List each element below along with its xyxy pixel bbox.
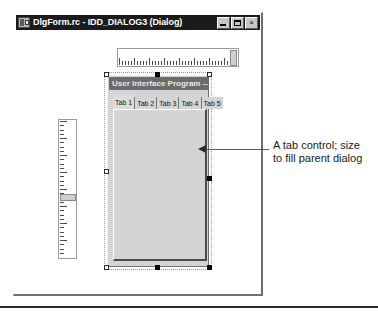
ruler-tick <box>60 138 67 139</box>
ruler-tick <box>188 61 189 65</box>
window-title: DlgForm.rc - IDD_DIALOG3 (Dialog) <box>33 17 182 28</box>
ruler-tick <box>137 61 138 65</box>
close-icon: × <box>246 18 257 28</box>
horizontal-ruler-ticks <box>119 57 237 65</box>
callout-text: A tab control; size to fill parent dialo… <box>273 139 375 165</box>
tab-label: Tab 4 <box>181 100 198 107</box>
ruler-tick <box>60 215 64 216</box>
ruler-tick <box>60 168 64 169</box>
resize-handle-top-center[interactable] <box>155 72 160 77</box>
ruler-tick <box>60 142 64 143</box>
horizontal-ruler-thumb[interactable] <box>230 50 237 66</box>
tab-3[interactable]: Tab 3 <box>156 97 178 109</box>
minimize-button[interactable] <box>217 17 230 29</box>
ruler-tick <box>60 249 64 250</box>
vertical-ruler-thumb[interactable] <box>60 194 76 201</box>
tab-control-body <box>113 109 207 261</box>
callout-arrow-icon <box>198 145 206 153</box>
minimize-icon <box>220 24 226 26</box>
ruler-tick <box>224 58 225 65</box>
ruler-tick <box>60 172 67 173</box>
ruler-tick <box>143 61 144 65</box>
ruler-tick <box>218 61 219 65</box>
ruler-tick <box>60 147 64 148</box>
window-titlebar[interactable]: DlgForm.rc - IDD_DIALOG3 (Dialog) × <box>16 15 260 30</box>
tab-label: Tab 3 <box>159 100 176 107</box>
callout-line-2: to fill parent dialog <box>273 152 375 165</box>
resize-handle-middle-left[interactable] <box>104 169 109 174</box>
resource-editor-window: DlgForm.rc - IDD_DIALOG3 (Dialog) × <box>13 12 263 296</box>
ruler-tick <box>197 61 198 65</box>
tab-strip: Tab 1Tab 2Tab 3Tab 4Tab 5 <box>113 95 207 109</box>
ruler-tick <box>140 61 141 65</box>
resize-handle-middle-right[interactable] <box>207 176 212 181</box>
ruler-tick <box>203 61 204 65</box>
ruler-tick <box>60 206 67 207</box>
figure-bottom-rule <box>0 306 378 308</box>
tab-label: Tab 1 <box>115 99 132 106</box>
ruler-tick <box>185 61 186 65</box>
ruler-tick <box>146 61 147 65</box>
ruler-tick <box>60 176 64 177</box>
close-button[interactable]: × <box>245 17 258 29</box>
resource-script-icon <box>18 17 30 28</box>
ruler-tick <box>60 164 64 165</box>
ruler-tick <box>158 61 159 65</box>
editor-client-area: User Interface Program -- Setup Tab 1Tab… <box>16 31 260 293</box>
ruler-tick <box>125 61 126 65</box>
ruler-tick <box>60 155 67 156</box>
ruler-tick <box>60 253 64 254</box>
ruler-tick <box>200 61 201 65</box>
ruler-tick <box>60 232 64 233</box>
ruler-tick <box>60 219 64 220</box>
ruler-tick <box>60 244 64 245</box>
ruler-tick <box>149 58 150 65</box>
ruler-tick <box>164 58 165 65</box>
vertical-ruler[interactable] <box>58 119 77 259</box>
figure-root: DlgForm.rc - IDD_DIALOG3 (Dialog) × <box>0 0 378 318</box>
ruler-tick <box>60 236 64 237</box>
ruler-tick <box>60 130 64 131</box>
ruler-tick <box>60 210 64 211</box>
resize-handle-bottom-left[interactable] <box>104 265 109 270</box>
tab-1[interactable]: Tab 1 <box>113 95 134 109</box>
maximize-button[interactable] <box>231 17 244 29</box>
ruler-tick <box>60 159 64 160</box>
ruler-tick <box>152 61 153 65</box>
dialog-design-surface[interactable]: User Interface Program -- Setup Tab 1Tab… <box>104 72 212 270</box>
ruler-tick <box>60 121 67 122</box>
resize-handle-bottom-center[interactable] <box>155 265 160 270</box>
ruler-tick <box>60 223 67 224</box>
ruler-tick <box>167 61 168 65</box>
tab-control[interactable]: Tab 1Tab 2Tab 3Tab 4Tab 5 <box>113 95 207 261</box>
ruler-tick <box>60 227 64 228</box>
ruler-tick <box>182 61 183 65</box>
ruler-tick <box>191 61 192 65</box>
ruler-tick <box>179 58 180 65</box>
tab-4[interactable]: Tab 4 <box>178 97 200 109</box>
ruler-tick <box>122 61 123 65</box>
ruler-tick <box>206 61 207 65</box>
ruler-tick <box>60 181 64 182</box>
tab-2[interactable]: Tab 2 <box>134 97 156 109</box>
callout-leader-line <box>207 149 269 150</box>
tab-5[interactable]: Tab 5 <box>201 97 223 109</box>
window-controls: × <box>217 17 258 29</box>
ruler-tick <box>60 189 67 190</box>
ruler-tick <box>131 61 132 65</box>
dialog-preview[interactable]: User Interface Program -- Setup Tab 1Tab… <box>107 75 209 267</box>
ruler-tick <box>155 61 156 65</box>
tab-label: Tab 2 <box>137 100 154 107</box>
resize-handle-top-left[interactable] <box>104 72 109 77</box>
ruler-tick <box>60 240 67 241</box>
ruler-tick <box>60 202 64 203</box>
dialog-caption: User Interface Program -- Setup <box>109 77 209 90</box>
ruler-tick <box>128 61 129 65</box>
ruler-tick <box>161 61 162 65</box>
resize-handle-top-right[interactable] <box>207 72 212 77</box>
ruler-tick <box>221 61 222 65</box>
ruler-tick <box>134 58 135 65</box>
resize-handle-bottom-right[interactable] <box>207 265 212 270</box>
horizontal-ruler[interactable] <box>117 48 239 67</box>
tab-label: Tab 5 <box>204 100 221 107</box>
